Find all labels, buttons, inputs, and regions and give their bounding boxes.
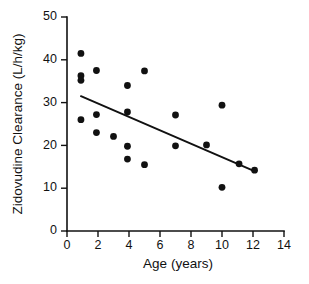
x-axis-ticks xyxy=(67,231,284,237)
regression-line xyxy=(81,96,256,172)
data-points-group xyxy=(78,50,258,191)
y-tick-label-40: 40 xyxy=(43,52,57,66)
data-point xyxy=(141,68,148,75)
y-tick-label-30: 30 xyxy=(43,95,57,109)
x-tick-label-4: 4 xyxy=(126,238,133,252)
data-point xyxy=(124,156,131,163)
axes-group xyxy=(67,17,284,231)
data-point xyxy=(78,116,85,123)
x-tick-label-6: 6 xyxy=(157,238,164,252)
x-tick-label-12: 12 xyxy=(246,238,260,252)
data-point xyxy=(251,167,258,174)
scatter-plot-figure: 0 10 20 30 40 50 0 2 4 6 8 10 12 14 xyxy=(0,0,309,284)
data-point xyxy=(124,109,131,116)
y-tick-label-0: 0 xyxy=(50,223,57,237)
x-axis-tick-labels: 0 2 4 6 8 10 12 14 xyxy=(64,238,291,252)
x-tick-label-0: 0 xyxy=(64,238,71,252)
data-point xyxy=(78,77,85,84)
data-point xyxy=(219,184,226,191)
data-point xyxy=(110,133,117,140)
x-tick-label-14: 14 xyxy=(277,238,291,252)
y-axis-title: Zidovudine Clearance (L/h/kg) xyxy=(10,34,25,215)
data-point xyxy=(93,129,100,136)
x-tick-label-10: 10 xyxy=(215,238,229,252)
x-tick-label-2: 2 xyxy=(95,238,102,252)
y-tick-label-10: 10 xyxy=(43,180,57,194)
data-point xyxy=(124,82,131,89)
data-point xyxy=(93,67,100,74)
data-point xyxy=(93,111,100,118)
data-point xyxy=(172,112,179,119)
data-point xyxy=(219,102,226,109)
data-point xyxy=(203,142,210,149)
y-axis-tick-labels: 0 10 20 30 40 50 xyxy=(43,9,57,237)
y-axis-ticks xyxy=(61,17,67,231)
x-axis-title: Age (years) xyxy=(143,256,213,271)
x-tick-label-8: 8 xyxy=(188,238,195,252)
data-point xyxy=(236,160,243,167)
regression-line-path xyxy=(81,96,256,172)
data-point xyxy=(78,50,85,57)
y-tick-label-20: 20 xyxy=(43,138,57,152)
data-point xyxy=(141,161,148,168)
data-point xyxy=(172,142,179,149)
data-point xyxy=(124,143,131,150)
y-tick-label-50: 50 xyxy=(43,9,57,23)
plot-canvas: 0 10 20 30 40 50 0 2 4 6 8 10 12 14 xyxy=(0,0,309,284)
